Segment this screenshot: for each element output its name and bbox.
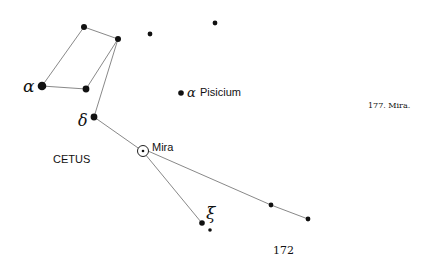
label-alpha: α [23, 76, 35, 96]
star-delta [91, 114, 98, 121]
line-e [94, 39, 118, 117]
line-d [86, 39, 118, 89]
star-east-2 [306, 217, 311, 222]
line-a [84, 27, 118, 39]
line-g [145, 154, 201, 222]
star-chart: α δ ξ Mira α Pisicium CETUS 177. Mira. 1… [0, 0, 445, 266]
figure-caption: 177. Mira. [368, 101, 410, 110]
star-beta-inner [83, 86, 90, 93]
label-alpha-pisicium-symbol: α [187, 85, 196, 100]
star-alpha-pisicium [178, 90, 184, 96]
label-xi: ξ [206, 203, 217, 223]
star-top-right [115, 36, 121, 42]
star-field-1 [148, 32, 153, 37]
star-alpha [38, 82, 47, 91]
line-h [148, 151, 271, 205]
star-top-left [81, 24, 87, 30]
label-delta: δ [78, 111, 88, 130]
star-east-1 [269, 203, 274, 208]
label-mira: Mira [152, 141, 174, 153]
mira-symbol-icon [138, 146, 149, 157]
constellation-label: CETUS [53, 153, 90, 165]
star-xi [199, 220, 205, 226]
label-pisicium: Pisicium [200, 86, 241, 98]
star-xi-companion [208, 228, 212, 232]
page-number: 172 [273, 244, 294, 257]
line-c [42, 86, 86, 89]
line-f [94, 117, 141, 150]
star-field-2 [213, 21, 218, 26]
line-b [42, 27, 84, 86]
line-i [271, 205, 308, 219]
